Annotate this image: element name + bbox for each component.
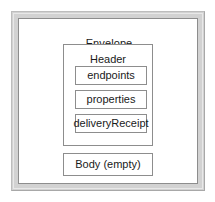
envelope-container: Envelope Header endpoints properties del… <box>18 18 198 184</box>
header-field-endpoints: endpoints <box>75 66 147 85</box>
header-field-delivery-receipt: deliveryReceipt <box>75 114 147 133</box>
header-field-properties: properties <box>75 90 147 109</box>
header-container: Header endpoints properties deliveryRece… <box>63 44 153 146</box>
body-container: Body (empty) <box>63 153 153 176</box>
diagram-root: Envelope Header endpoints properties del… <box>0 0 215 202</box>
header-label: Header <box>64 53 152 66</box>
